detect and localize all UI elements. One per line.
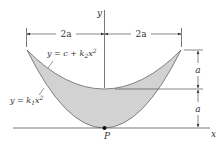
lower-curve-label: y = k1x2 xyxy=(9,94,44,106)
dim-label-lower: a xyxy=(195,104,200,114)
dim-label-right: 2a xyxy=(135,29,147,39)
upper-curve-label: y = c + k2x2 xyxy=(46,47,97,59)
y-axis-label: y xyxy=(96,8,103,18)
diagram-canvas: 2a 2a a a y x P y = c + k2x2 y = k1x2 xyxy=(0,0,223,143)
dim-label-upper: a xyxy=(195,65,200,75)
upper-curve-leader xyxy=(48,61,53,68)
point-p xyxy=(103,126,107,130)
point-p-label: P xyxy=(103,131,111,141)
x-axis-label: x xyxy=(211,129,216,139)
dim-label-left: 2a xyxy=(60,29,72,39)
